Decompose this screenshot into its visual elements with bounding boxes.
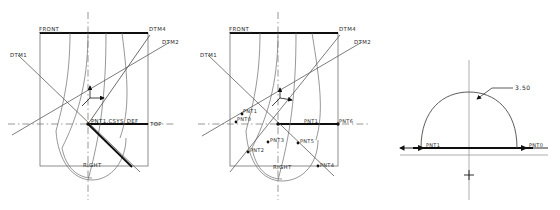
view-left-label-dtm4: DTM4 [149,26,166,32]
origin-point-marker [86,122,89,125]
view-right-label-pnt1: PNT1 [426,142,440,148]
dtm1-plane-line [18,55,140,172]
csys-triad [82,86,104,106]
view-middle-label-pnt4: PNT4 [320,162,334,168]
view-middle-label-pnt0: PNT0 [237,116,251,122]
point-marker-pnt5 [297,142,300,145]
csys-triad [272,88,292,106]
point-marker-pnt1 [418,145,425,151]
view-left-label-right: RIGHT [83,162,102,168]
view-middle-label-front: FRONT [229,26,250,32]
view-middle-label-pnt-center: PNT1 [304,118,318,124]
point-marker-pnt0 [521,145,528,151]
view-left-label-origin: PNT1,CSYS_DEF [91,118,139,125]
view-middle-label-dtm1: DTM1 [200,52,217,58]
silhouette-arc-3 [278,33,296,180]
datum-plane-box [40,33,148,166]
point-marker-pnt4 [317,165,320,168]
cad-drawing-canvas: FRONT DTM4 DTM2 DTM1 TOP RIGHT PNT1,CSYS… [0,0,560,210]
view-left-label-dtm2: DTM2 [162,39,179,45]
view-middle-group: FRONT DTM4 DTM2 DTM1 PNT1 PNT0 PNT2 PNT3… [198,12,371,200]
view-left-label-front: FRONT [39,26,60,32]
point-marker-pnt2 [247,151,250,154]
silhouette-arc-2 [252,33,278,148]
view-left-label-top: TOP [149,121,162,127]
view-middle-label-dtm4: DTM4 [339,26,356,32]
point-marker-pnt3 [267,141,270,144]
drawing-svg: FRONT DTM4 DTM2 DTM1 TOP RIGHT PNT1,CSYS… [0,0,560,210]
point-marker-center [276,122,279,125]
center-cross-marker [464,170,474,180]
silhouette-arc-1 [56,33,70,131]
view-middle-label-right: RIGHT [273,164,292,170]
view-middle-label-pnt6: PNT6 [339,118,353,124]
view-right-group: 3.50 PNT1 PNT0 [400,60,548,200]
silhouette-arc-3 [88,33,106,180]
view-middle-label-pnt2: PNT2 [250,147,264,153]
dtm1-plane-line [208,55,334,176]
view-right-label-pnt0: PNT0 [529,142,543,148]
view-left-group: FRONT DTM4 DTM2 DTM1 TOP RIGHT PNT1,CSYS… [8,12,179,200]
arc-dimension-label: 3.50 [515,84,531,91]
view-middle-label-pnt3: PNT3 [270,137,284,143]
view-middle-label-pnt5: PNT5 [300,138,314,144]
silhouette-arc-2 [62,33,88,148]
datum-plane-box [230,33,338,166]
view-middle-label-pnt1: PNT1 [243,108,257,114]
view-middle-label-dtm2: DTM2 [354,39,371,45]
view-left-label-dtm1: DTM1 [10,52,27,58]
dtm4-plane-line [88,35,150,124]
